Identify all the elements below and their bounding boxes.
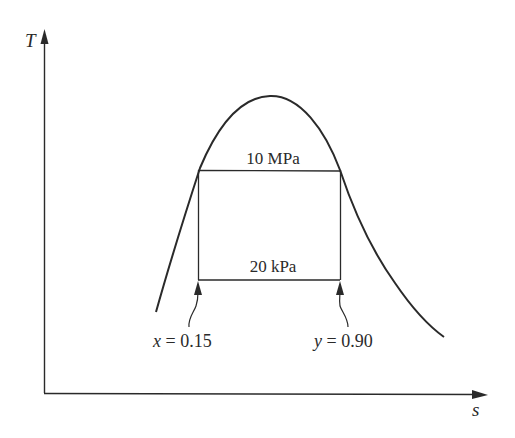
state-label-x-var: x [152,331,161,351]
pointer-arrow-left [189,281,202,327]
state-label-x: x = 0.15 [152,331,212,351]
saturation-dome [156,96,444,337]
state-label-y: y = 0.90 [312,331,373,351]
x-axis-arrow-icon [472,390,488,399]
x-axis-label: s [472,399,479,420]
ts-diagram: T s 10 MPa 20 kPa x = 0.15 y = 0.90 [0,0,515,438]
y-axis-label: T [25,30,37,51]
arrowhead-icon [194,281,202,295]
state-label-y-value: = 0.90 [327,331,373,351]
state-label-y-var: y [312,331,322,351]
y-axis [41,29,49,393]
pointer-arrow-right [336,281,348,327]
arrowhead-icon [336,281,344,295]
y-axis-arrow-icon [41,29,49,44]
state-label-x-value: = 0.15 [166,331,212,351]
isobar-label-low: 20 kPa [250,257,297,276]
isobar-high [198,171,340,172]
isobar-label-high: 10 MPa [246,149,300,168]
x-axis [44,390,488,399]
